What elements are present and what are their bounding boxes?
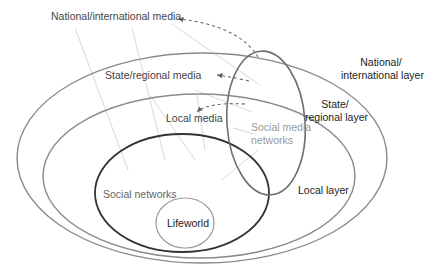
local-layer-label: Local layer xyxy=(298,184,349,197)
national-media-label: National/international media xyxy=(51,10,181,23)
media-layers-diagram: National/international media State/regio… xyxy=(0,0,427,275)
state-layer-label-line2: regional layer xyxy=(305,111,365,124)
social-media-label-line1: Social media xyxy=(251,121,311,134)
state-layer-label: State/ regional layer xyxy=(305,98,365,124)
local-media-label: Local media xyxy=(166,112,223,125)
national-layer-label-line2: international layer xyxy=(341,69,421,82)
arrow-to-national-media xyxy=(178,19,258,57)
social-networks-label: Social networks xyxy=(103,188,177,201)
arrow-to-local-media xyxy=(197,104,245,112)
diagram-graphics xyxy=(0,0,427,275)
state-layer-label-line1: State/ xyxy=(305,98,365,111)
social-media-label-line2: networks xyxy=(251,134,311,147)
national-layer-ellipse xyxy=(17,53,387,263)
national-layer-label-line1: National/ xyxy=(341,56,421,69)
state-media-label: State/regional media xyxy=(105,69,201,82)
social-media-networks-label: Social media networks xyxy=(251,121,311,147)
lifeworld-label: Lifeworld xyxy=(167,217,209,230)
national-layer-label: National/ international layer xyxy=(341,56,421,82)
